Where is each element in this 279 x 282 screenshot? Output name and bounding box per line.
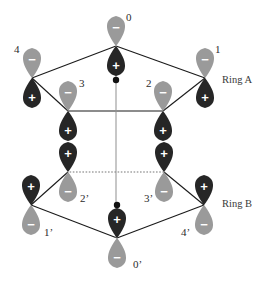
sign-top: − [159, 85, 167, 100]
orbital-label-B-2p: 2’ [80, 193, 89, 204]
ring-center-dot-B [114, 202, 120, 208]
sign-bottom: + [112, 58, 120, 73]
sign-top: + [27, 179, 35, 194]
sign-bottom: − [200, 217, 208, 232]
sign-bottom: + [201, 90, 209, 105]
sign-bottom: − [160, 184, 168, 199]
sign-bottom: + [64, 123, 72, 138]
orbital-label-A-2: 2 [146, 78, 152, 89]
ring-center-dot-A [113, 77, 119, 83]
orbital-B-0p: +− [108, 208, 126, 268]
sign-top: − [64, 85, 72, 100]
sign-bottom: + [159, 123, 167, 138]
sign-top: + [64, 146, 72, 161]
orbital-A-0: −+ [107, 16, 125, 76]
orbital-label-A-0: 0 [126, 12, 132, 23]
bond-A-4-0 [32, 46, 116, 78]
orbital-diagram-svg: −+−+−+−+−++−+−+−+−+− [0, 0, 279, 282]
sign-top: − [201, 52, 209, 67]
sign-bottom: − [113, 250, 121, 265]
orbital-B-4p: +− [195, 175, 213, 235]
orbital-label-A-3: 3 [79, 78, 85, 89]
sign-top: + [200, 179, 208, 194]
orbital-label-B-3p: 3’ [144, 193, 153, 204]
orbital-label-B-4p: 4’ [181, 227, 190, 238]
bond-A-0-1 [116, 46, 205, 78]
orbital-label-A-1: 1 [215, 44, 221, 55]
sign-top: − [112, 20, 120, 35]
bond-B-0p-4p [117, 205, 204, 238]
sign-top: − [28, 52, 36, 67]
sign-bottom: − [27, 217, 35, 232]
orbital-A-4: −+ [23, 48, 41, 108]
sign-top: + [113, 212, 121, 227]
orbital-label-A-4: 4 [14, 44, 20, 55]
orbital-A-1: −+ [196, 48, 214, 108]
ring-a-label: Ring A [222, 75, 252, 86]
sign-bottom: − [64, 184, 72, 199]
orbital-label-B-1p: 1’ [44, 227, 53, 238]
sign-bottom: + [28, 90, 36, 105]
orbital-label-B-0p: 0’ [133, 259, 142, 270]
orbital-B-1p: +− [22, 175, 40, 235]
figure-canvas: −+−+−+−+−++−+−+−+−+− 012340’1’2’3’4’Ring… [0, 0, 279, 282]
ring-b-label: Ring B [222, 199, 252, 210]
sign-top: + [160, 146, 168, 161]
orbital-B-3p: +− [155, 142, 173, 202]
